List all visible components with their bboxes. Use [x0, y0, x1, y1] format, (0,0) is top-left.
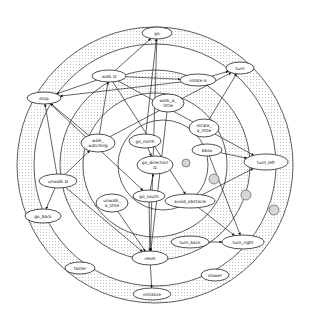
gray-circle-icon [182, 159, 190, 167]
edge-unwalk_D-to-stop [45, 104, 57, 174]
node-turn[interactable]: turn [226, 62, 254, 74]
node-avoid-obstacle[interactable]: avoid_obstacle [165, 194, 215, 208]
node-label: initialize [143, 292, 161, 297]
node-initialize[interactable]: initialize [133, 288, 171, 300]
gray-circle-icon [241, 190, 251, 200]
node-faster[interactable]: faster [65, 262, 95, 274]
node-walk-D[interactable]: walk D [92, 70, 126, 82]
node-stop[interactable]: stop [27, 92, 61, 104]
node-label: little [163, 103, 173, 108]
node-turn-back[interactable]: turn_back [171, 236, 209, 248]
node-slower[interactable]: slower [201, 269, 229, 281]
node-walk-a-little[interactable]: walk_a_little [152, 94, 184, 112]
edge-go_north-to-go_direction_D [148, 148, 151, 156]
node-unwalk-D[interactable]: unwalk D [39, 174, 77, 188]
edge-walk_a_little-to-reset [151, 112, 167, 251]
node-label: stop [39, 96, 49, 101]
node-bbox[interactable]: bbox [192, 144, 222, 156]
node-go[interactable]: go [142, 27, 172, 39]
node-label: rotate A [189, 78, 206, 83]
node-label: faster [74, 266, 87, 271]
node-label: turn [236, 66, 245, 71]
node-go-direction-D[interactable]: go_directionD [137, 156, 173, 174]
node-go-back[interactable]: go_back [25, 209, 61, 223]
gray-circle-icon [269, 205, 279, 215]
node-label: unwalk D [48, 179, 69, 184]
node-unwalk-a-little[interactable]: unwalk_a_little [96, 194, 128, 212]
node-go-south[interactable]: go_south [133, 190, 165, 202]
node-turn-left[interactable]: turn_left [244, 154, 288, 170]
node-label: watching [88, 143, 108, 148]
node-label: reset [145, 256, 156, 261]
node-label: slower [208, 273, 222, 278]
edge-unwalk_D-to-go_back [46, 188, 55, 209]
node-rotate-a-little[interactable]: rotate_a_little [189, 119, 219, 137]
edge-reset-to-initialize [150, 265, 151, 288]
state-diagram: gowalk Drotate Aturnstopwalk_a_littlerot… [0, 0, 310, 320]
node-walk-watching[interactable]: walk_watching [81, 134, 115, 152]
node-label: go [154, 31, 160, 36]
node-go-north[interactable]: go_north [129, 134, 161, 148]
node-rotate-A[interactable]: rotate A [180, 74, 216, 86]
node-reset[interactable]: reset [132, 251, 168, 265]
node-turn-right[interactable]: turn_right [222, 235, 264, 249]
node-label: bbox [202, 148, 213, 153]
node-label: walk D [102, 74, 117, 79]
gray-circle-icon [209, 174, 219, 184]
